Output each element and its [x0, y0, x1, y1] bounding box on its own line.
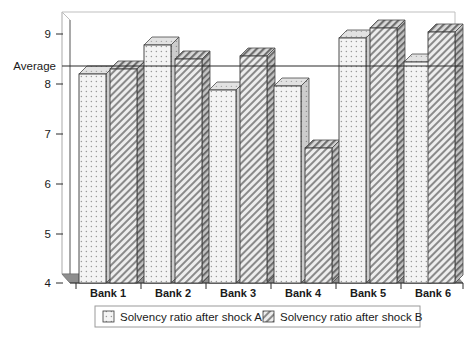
y-tick-label-4: 4	[45, 277, 52, 289]
legend-label-shock-a: Solvency ratio after shock A	[120, 311, 262, 323]
legend-label-shock-b: Solvency ratio after shock B	[280, 311, 423, 323]
bar-bank-6-series-b	[428, 24, 463, 283]
y-tick-label-8: 8	[45, 78, 51, 90]
y-tick-label-7: 7	[45, 128, 51, 140]
bar-group-bank-2	[144, 37, 210, 283]
bar-bank-4-series-b	[305, 140, 340, 283]
x-label-bank-3: Bank 3	[220, 287, 256, 299]
y-tick-label-9: 9	[45, 28, 51, 40]
dotted-swatch-icon	[103, 311, 114, 322]
x-label-bank-1: Bank 1	[90, 287, 126, 299]
bar-bank-2-series-a	[144, 37, 179, 283]
x-label-bank-5: Bank 5	[350, 287, 386, 299]
x-label-bank-4: Bank 4	[285, 287, 322, 299]
bar-bank-4-series-a	[274, 78, 309, 283]
bar-bank-3-series-a	[209, 82, 244, 283]
y-tick-label-5: 5	[45, 228, 51, 240]
bar-bank-5-series-b	[370, 20, 405, 283]
x-label-bank-6: Bank 6	[415, 287, 451, 299]
x-label-bank-2: Bank 2	[155, 287, 191, 299]
bar-group-bank-1	[79, 61, 145, 283]
y-tick-label-6: 6	[45, 178, 51, 190]
hatched-swatch-icon	[263, 311, 274, 322]
chart-canvas: 9 8 7 6 5 4	[0, 0, 467, 341]
bar-bank-1-series-a	[79, 66, 114, 283]
bar-bank-1-series-b	[110, 61, 145, 283]
bar-group-bank-5	[339, 20, 405, 283]
bar-group-bank-3	[209, 48, 275, 283]
average-line-label: Average	[13, 60, 56, 72]
bar-group-bank-6	[404, 24, 463, 283]
solvency-ratio-bar-chart: 9 8 7 6 5 4	[0, 0, 467, 341]
legend-item-shock-b[interactable]: Solvency ratio after shock B	[263, 311, 423, 323]
bar-bank-3-series-b	[240, 48, 275, 283]
legend-item-shock-a[interactable]: Solvency ratio after shock A	[103, 311, 262, 323]
chart-legend: Solvency ratio after shock A Solvency ra…	[95, 306, 423, 327]
bar-bank-5-series-a	[339, 30, 374, 283]
bar-bank-2-series-b	[175, 51, 210, 283]
